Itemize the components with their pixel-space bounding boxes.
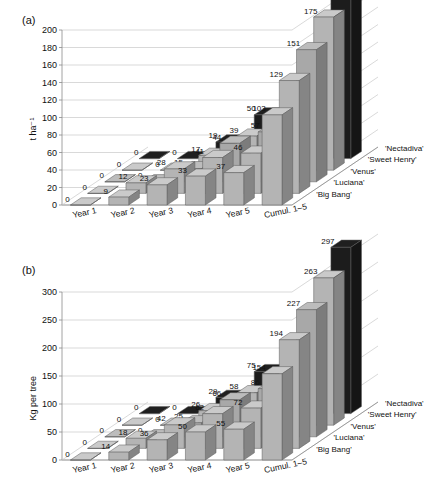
bar-value-label: 0 bbox=[134, 403, 139, 412]
bar-3d bbox=[122, 163, 153, 170]
bar-3d bbox=[185, 169, 216, 205]
y-axis-tick-label: 140 bbox=[42, 78, 57, 88]
bar-value-label: 37 bbox=[216, 162, 225, 171]
depth-axis-cultivar-label: 'Venus' bbox=[351, 167, 377, 176]
depth-axis-cultivar-label: 'Big Bang' bbox=[316, 190, 352, 199]
x-axis-category-label: Year 4 bbox=[187, 460, 213, 475]
bar-value-label: 46 bbox=[234, 143, 243, 152]
y-axis-tick-label: 160 bbox=[42, 60, 57, 70]
bar-value-label: 12 bbox=[119, 172, 128, 181]
bar-value-label: 50 bbox=[178, 422, 187, 431]
depth-axis-cultivar-label: 'Sweet Henry' bbox=[368, 410, 417, 419]
bar-value-label: 18 bbox=[119, 428, 128, 437]
x-axis-category-label: Year 5 bbox=[225, 205, 251, 220]
bars-layer: 0029759129700265882263002566862270184262… bbox=[65, 237, 361, 460]
bar-value-label: 62 bbox=[195, 403, 204, 412]
bar-3d bbox=[262, 108, 293, 205]
x-axis-category-label: Year 2 bbox=[110, 205, 136, 220]
y-axis-title: t ha⁻¹ bbox=[28, 118, 38, 141]
bar-value-label: 58 bbox=[230, 382, 239, 391]
depth-axis-cultivar-label: 'Nectadiva' bbox=[385, 144, 424, 153]
depth-axis-cultivar-label: 'Venus' bbox=[351, 422, 377, 431]
x-axis-category-label: Year 4 bbox=[187, 205, 213, 220]
bar-value-label: 154 bbox=[252, 363, 266, 372]
bar-value-label: 297 bbox=[321, 237, 335, 246]
bar-value-label: 0 bbox=[117, 160, 122, 169]
bar-value-label: 41 bbox=[195, 147, 204, 156]
depth-axis-cultivar-label: 'Sweet Henry' bbox=[368, 155, 417, 164]
bar-3d bbox=[70, 453, 101, 460]
y-axis-tick-label: 40 bbox=[47, 165, 57, 175]
x-axis-category-label: Year 1 bbox=[72, 205, 98, 220]
chart-panel-b: (b) 050100150200250300Kg per tree0029759… bbox=[0, 248, 445, 496]
y-axis-tick-label: 100 bbox=[42, 113, 57, 123]
y-axis-tick-label: 0 bbox=[52, 200, 57, 210]
bar-value-label: 263 bbox=[304, 267, 318, 276]
y-axis-tick-label: 120 bbox=[42, 95, 57, 105]
y-axis-tick-label: 200 bbox=[42, 343, 57, 353]
bar-value-label: 42 bbox=[157, 414, 166, 423]
bar-value-label: 0 bbox=[172, 148, 177, 157]
bar-value-label: 23 bbox=[140, 174, 149, 183]
x-axis-category-label: Year 3 bbox=[148, 205, 174, 220]
bar-3d bbox=[109, 445, 140, 460]
chart-b-plot-area: 050100150200250300Kg per tree00297591297… bbox=[0, 248, 445, 496]
y-axis-tick-label: 60 bbox=[47, 148, 57, 158]
bar-value-label: 86 bbox=[251, 378, 260, 387]
y-axis-tick-label: 150 bbox=[42, 371, 57, 381]
bar-value-label: 44 bbox=[212, 133, 221, 142]
bar-3d bbox=[224, 165, 255, 205]
chart-a-plot-area: 020406080100120140160180200t ha⁻¹0019506… bbox=[0, 0, 445, 248]
bar-3d bbox=[70, 198, 101, 205]
y-axis-tick-label: 50 bbox=[47, 427, 57, 437]
y-axis-tick-label: 100 bbox=[42, 399, 57, 409]
bar-value-label: 194 bbox=[270, 329, 284, 338]
bar-value-label: 36 bbox=[140, 429, 149, 438]
bar-3d bbox=[139, 406, 170, 413]
figure-container: (a) 020406080100120140160180200t ha⁻¹001… bbox=[0, 0, 445, 496]
bar-value-label: 0 bbox=[65, 195, 70, 204]
depth-axis-cultivar-label: 'Luciana' bbox=[333, 178, 365, 187]
bar-value-label: 0 bbox=[172, 403, 177, 412]
bar-value-label: 28 bbox=[157, 158, 166, 167]
y-axis-tick-label: 180 bbox=[42, 43, 57, 53]
bar-3d bbox=[122, 418, 153, 425]
bar-value-label: 0 bbox=[100, 426, 105, 435]
y-axis-tick-label: 0 bbox=[52, 455, 57, 465]
bar-value-label: 0 bbox=[100, 171, 105, 180]
bar-value-label: 66 bbox=[212, 389, 221, 398]
bar-value-label: 57 bbox=[251, 121, 260, 130]
bar-value-label: 72 bbox=[234, 398, 243, 407]
bars-layer: 0019506119800173955175001544571510122841… bbox=[65, 0, 361, 205]
y-axis-tick-label: 20 bbox=[47, 183, 57, 193]
depth-axis-cultivar-label: 'Nectadiva' bbox=[385, 399, 424, 408]
y-axis-tick-label: 250 bbox=[42, 315, 57, 325]
bar-value-label: 175 bbox=[304, 7, 318, 16]
bar-3d bbox=[185, 425, 216, 460]
bar-value-label: 39 bbox=[230, 126, 239, 135]
bar-value-label: 9 bbox=[104, 187, 109, 196]
depth-axis-cultivar-label: 'Big Bang' bbox=[316, 445, 352, 454]
bar-value-label: 0 bbox=[82, 438, 87, 447]
bar-3d bbox=[147, 178, 178, 205]
bar-3d bbox=[147, 433, 178, 460]
bar-value-label: 129 bbox=[270, 70, 284, 79]
bar-value-label: 103 bbox=[252, 104, 266, 113]
bar-3d bbox=[262, 367, 293, 460]
x-axis-category-label: Year 5 bbox=[225, 460, 251, 475]
bar-value-label: 33 bbox=[178, 166, 187, 175]
bar-value-label: 14 bbox=[101, 442, 110, 451]
bar-value-label: 55 bbox=[216, 419, 225, 428]
bar-value-label: 0 bbox=[134, 148, 139, 157]
bar-3d bbox=[109, 190, 140, 205]
bar-3d bbox=[224, 422, 255, 460]
y-axis-tick-label: 300 bbox=[42, 287, 57, 297]
bar-value-label: 0 bbox=[117, 415, 122, 424]
y-axis-title: Kg per tree bbox=[28, 376, 38, 421]
y-axis-tick-label: 80 bbox=[47, 130, 57, 140]
chart-panel-a: (a) 020406080100120140160180200t ha⁻¹001… bbox=[0, 0, 445, 248]
x-axis-category-label: Year 3 bbox=[148, 460, 174, 475]
bar-value-label: 0 bbox=[65, 450, 70, 459]
depth-axis-cultivar-label: 'Luciana' bbox=[333, 433, 365, 442]
bar-value-label: 151 bbox=[287, 39, 301, 48]
